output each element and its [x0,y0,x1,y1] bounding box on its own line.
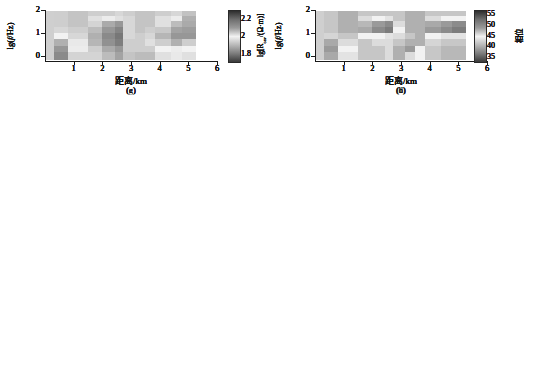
heatmap-cell [102,52,116,60]
x-tick-label: 1 [337,64,351,73]
heatmap-cell [54,52,68,60]
heatmap-cell [452,52,466,60]
panel-h: 012123456lg(f/Hz)距离/km(h)5550454035相位 [268,0,536,97]
heatmap-cell [324,52,338,60]
heatmap-cell [358,52,373,60]
colorbar-tick-label: 2.2 [241,15,251,23]
panel-label: (g) [45,85,217,95]
heatmap-g [46,11,196,60]
x-tick-label: 3 [394,64,408,73]
x-tick-label: 4 [153,64,167,73]
y-tick-label: 1 [290,28,310,37]
heatmap-cell [171,52,183,60]
colorbar-title: lg[Rcav/(Ω·m)] [256,8,268,63]
heatmap-h [316,11,466,60]
y-tick-label: 0 [290,51,310,60]
y-tick [41,56,46,57]
colorbar-tick-label: 40 [487,42,495,50]
x-tick-label: 4 [423,64,437,73]
x-tick-label: 6 [210,64,224,73]
colorbar-h [474,10,487,63]
heatmap-cell [182,52,196,60]
heatmap-cell [405,52,416,60]
y-tick-label: 2 [20,5,40,14]
heatmap-cell [145,52,156,60]
x-tick-label: 5 [451,64,465,73]
y-axis-title: lg(f/Hz) [4,12,16,60]
heatmap-cell [135,52,146,60]
heatmap-cell [372,52,386,60]
heatmap-cell [68,52,89,60]
y-tick-label: 0 [20,51,40,60]
y-tick-label: 2 [290,5,310,14]
y-axis-line [45,10,46,61]
y-tick [311,10,316,11]
heatmap-cell [415,52,426,60]
colorbar-tick-label: 50 [487,21,495,29]
heatmap-cell [425,52,441,60]
y-tick [311,56,316,57]
colorbar-tick-label: 55 [487,10,495,18]
x-tick-label: 3 [124,64,138,73]
heatmap-cell [88,52,103,60]
y-tick [41,10,46,11]
x-tick-label: 2 [95,64,109,73]
y-axis-title: lg(f/Hz) [272,12,284,60]
panel-label: (h) [315,85,487,95]
colorbar-tick-label: 45 [487,32,495,40]
colorbar-tick-label: 2 [241,32,245,40]
x-tick-label: 5 [181,64,195,73]
y-tick [311,33,316,34]
colorbar-tick-label: 35 [487,53,495,61]
heatmap-cell [393,52,405,60]
x-tick-label: 2 [365,64,379,73]
colorbar-ticks: 5550454035 [487,10,513,61]
x-tick-label: 1 [67,64,81,73]
heatmap-cell [123,52,135,60]
x-tick-label: 6 [480,64,494,73]
figure-root: 012123456lg(f/Hz)距离/km(a)1.822.2lg[Rcav/… [0,0,537,391]
y-axis-line [315,10,316,61]
colorbar-tick-label: 1.8 [241,50,251,58]
heatmap-cell [441,52,453,60]
heatmap-cell [155,52,171,60]
colorbar-title: 相位 [512,8,524,63]
heatmap-cell [338,52,359,60]
panel-g: 012123456lg(f/Hz)距离/km(g)1.822.2lg[Rcav/… [0,0,268,97]
colorbar-g [228,10,241,63]
y-tick-label: 1 [20,28,40,37]
y-tick [41,33,46,34]
